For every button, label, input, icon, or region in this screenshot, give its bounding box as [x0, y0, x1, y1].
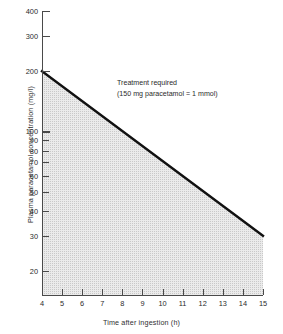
y-tick-80 — [43, 151, 49, 152]
x-tick-label-14: 14 — [239, 299, 247, 308]
x-tick-label-13: 13 — [219, 299, 227, 308]
y-tick-100 — [43, 131, 50, 132]
x-tick-label-5: 5 — [60, 299, 64, 308]
x-tick-9 — [142, 289, 143, 295]
y-tick-label-400: 400 — [26, 7, 38, 16]
x-tick-8 — [122, 289, 123, 295]
y-tick-200 — [43, 71, 50, 72]
y-tick-label-70: 70 — [30, 158, 38, 167]
y-tick-400 — [43, 11, 50, 12]
x-axis-title: Time after ingestion (h) — [0, 318, 283, 327]
treatment-annotation: Treatment required (150 mg paracetamol =… — [117, 78, 218, 99]
y-tick-300 — [43, 36, 50, 37]
x-tick-label-9: 9 — [140, 299, 144, 308]
y-tick-label-200: 200 — [26, 67, 38, 76]
treatment-line — [42, 11, 263, 296]
annotation-line-2: (150 mg paracetamol = 1 mmol) — [117, 89, 218, 100]
x-tick-label-8: 8 — [120, 299, 124, 308]
y-tick-30 — [43, 236, 49, 237]
y-tick-label-90: 90 — [30, 136, 38, 145]
y-tick-label-20: 20 — [30, 267, 38, 276]
plot-area: Treatment required (150 mg paracetamol =… — [42, 11, 263, 296]
x-tick-5 — [62, 289, 63, 295]
y-tick-label-30: 30 — [30, 231, 38, 240]
x-tick-14 — [243, 289, 244, 295]
x-tick-label-10: 10 — [158, 299, 166, 308]
y-tick-40 — [43, 211, 49, 212]
y-tick-label-100: 100 — [26, 127, 38, 136]
y-tick-20 — [43, 271, 49, 272]
y-tick-60 — [43, 176, 49, 177]
y-tick-label-40: 40 — [30, 206, 38, 215]
y-tick-90 — [43, 140, 49, 141]
y-tick-label-50: 50 — [30, 187, 38, 196]
y-tick-50 — [43, 192, 49, 193]
y-tick-70 — [43, 162, 49, 163]
x-tick-10 — [163, 289, 164, 295]
x-tick-13 — [223, 289, 224, 295]
x-tick-15 — [263, 289, 264, 295]
x-tick-7 — [102, 289, 103, 295]
annotation-line-1: Treatment required — [117, 78, 218, 89]
y-tick-label-80: 80 — [30, 146, 38, 155]
x-axis-line — [42, 295, 263, 296]
x-tick-label-11: 11 — [179, 299, 187, 308]
y-axis-line — [42, 11, 43, 296]
y-tick-label-300: 300 — [26, 31, 38, 40]
x-tick-label-4: 4 — [40, 299, 44, 308]
x-tick-label-7: 7 — [100, 299, 104, 308]
paracetamol-nomogram-chart: Plasma paracetamol concentration (mg/l) … — [0, 0, 283, 334]
x-tick-label-6: 6 — [80, 299, 84, 308]
x-tick-label-15: 15 — [259, 299, 267, 308]
x-tick-12 — [203, 289, 204, 295]
x-tick-label-12: 12 — [199, 299, 207, 308]
y-tick-label-60: 60 — [30, 171, 38, 180]
x-tick-11 — [183, 289, 184, 295]
x-tick-6 — [82, 289, 83, 295]
